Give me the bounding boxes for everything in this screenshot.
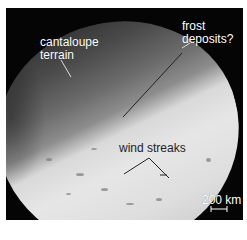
frost-deposits-label: frost deposits? <box>182 20 233 46</box>
surface-speck <box>101 188 108 191</box>
surface-speck <box>76 173 84 176</box>
surface-speck <box>91 148 97 150</box>
surface-speck <box>66 193 71 195</box>
surface-speck <box>126 203 134 205</box>
limb-shadow <box>6 48 46 188</box>
frost-line-2: deposits? <box>182 33 233 46</box>
surface-speck <box>46 158 52 161</box>
cantaloupe-line-2: terrain <box>40 49 99 62</box>
cantaloupe-terrain-label: cantaloupe terrain <box>40 36 99 62</box>
scale-bar-label: 200 km <box>202 194 241 207</box>
surface-speck <box>206 158 211 162</box>
surface-speck <box>156 198 162 201</box>
wind-streaks-label: wind streaks <box>119 142 186 155</box>
